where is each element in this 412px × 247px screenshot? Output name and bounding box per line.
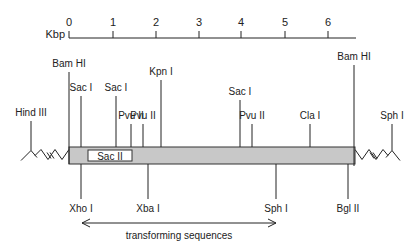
scale-unit-label: Kbp: [45, 28, 65, 40]
site-label-below: Bgl II: [337, 203, 360, 214]
right-branch-line: [392, 151, 400, 161]
sac2-label: Sac II: [97, 151, 123, 162]
transforming-sequences-label: transforming sequences: [126, 230, 233, 241]
scale-tick-label: 4: [238, 16, 244, 28]
insert-bar: Sac II: [69, 147, 355, 164]
site-label-below: Sph I: [264, 203, 287, 214]
site-label-below: Xho I: [69, 203, 92, 214]
kbp-scale: 0123456Kbp: [45, 16, 356, 40]
sph1-right-label: Sph I: [380, 110, 403, 121]
scale-tick-label: 6: [325, 16, 331, 28]
transforming-sequences-arrow: transforming sequences: [82, 219, 276, 241]
site-label-above: Pvu II: [130, 110, 156, 121]
scale-tick-label: 3: [196, 16, 202, 28]
site-label-below: Xba I: [136, 203, 159, 214]
site-label-above: Sac I: [229, 86, 252, 97]
scale-tick-label: 2: [153, 16, 159, 28]
sites-below: Xho IXba ISph IBgl II: [69, 164, 359, 214]
site-label-above: Bam HI: [337, 51, 370, 62]
site-label-above: Pvu II: [239, 110, 265, 121]
restriction-map-diagram: 0123456Kbp Hind IIISph I Sac II Bam HISa…: [0, 0, 412, 247]
site-label-above: Bam HI: [52, 58, 85, 69]
site-label-above: Sac I: [70, 82, 93, 93]
scale-tick-label: 1: [110, 16, 116, 28]
site-label-above: Cla I: [300, 110, 321, 121]
left-flank-zigzag: [35, 150, 69, 160]
scale-tick-label: 0: [66, 16, 72, 28]
site-label-above: Sac I: [105, 82, 128, 93]
scale-tick-label: 5: [282, 16, 288, 28]
left-branch-line: [21, 151, 31, 161]
hind3-label: Hind III: [15, 107, 47, 118]
site-label-above: Kpn I: [149, 66, 172, 77]
